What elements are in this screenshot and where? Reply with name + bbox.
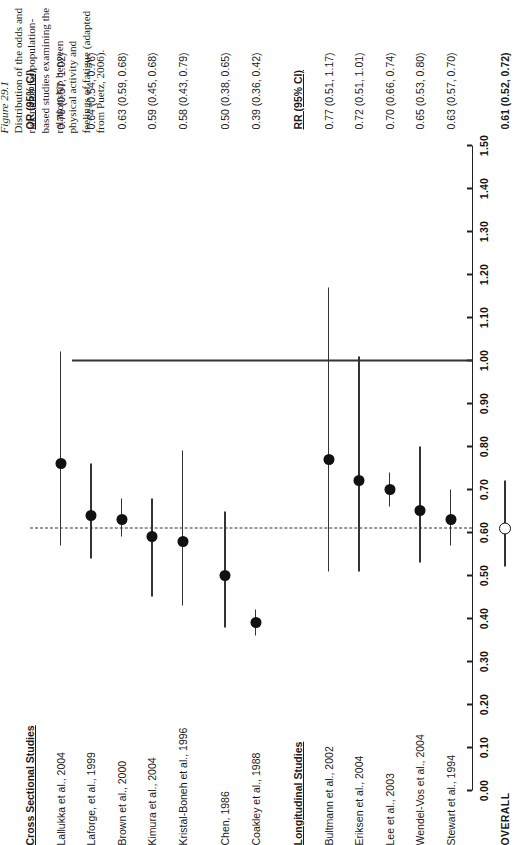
study-value-label: 0.63 (0.57, 0.70) [445,52,457,129]
confidence-interval-bar [224,511,225,627]
forest-plot-figure: 0.000.100.200.300.400.500.600.700.800.90… [0,0,528,845]
axis-tick-label: 0.90 [478,392,490,413]
figure-rotated-canvas: 0.000.100.200.300.400.500.600.700.800.90… [0,0,528,845]
axis-tick-label: 0.70 [478,478,490,499]
axis-tick [467,316,472,317]
axis-tick-label: 0.40 [478,607,490,628]
study-point-marker [445,514,456,525]
study-point-marker [250,617,261,628]
study-row-label: Wendel-Vos et al., 2004 [414,797,426,845]
axis-tick-label: 0.30 [478,650,490,671]
axis-tick-label: 1.50 [478,134,490,155]
study-row-label: Kristal-Boneh et al., 1996 [177,797,189,845]
axis-tick [467,789,472,790]
study-row-label: Chen, 1986 [219,797,231,845]
axis-tick-label: 0.20 [478,693,490,714]
study-row-label: Bultmann et al., 2002 [323,797,335,845]
axis-tick-label: 0.50 [478,564,490,585]
null-reference-line [72,359,472,360]
study-row-label: Stewart et al., 1994 [445,797,457,845]
axis-tick [467,445,472,446]
axis-tick-label: 0.10 [478,736,490,757]
study-value-label: 0.65 (0.53, 0.80) [414,52,426,129]
study-point-marker [220,570,231,581]
confidence-interval-bar [60,351,61,545]
study-value-label: 0.63 (0.59, 0.68) [116,52,128,129]
study-point-marker [415,505,426,516]
confidence-interval-bar [151,498,152,597]
study-point-marker [384,484,395,495]
confidence-interval-bar [419,446,420,562]
axis-tick [467,144,472,145]
axis-tick-label: 1.10 [478,306,490,327]
study-point-marker [55,458,66,469]
overall-point-marker [499,522,511,534]
axis-tick [467,230,472,231]
axis-tick-label: 0.60 [478,521,490,542]
study-point-marker [323,453,334,464]
study-point-marker [86,509,97,520]
study-row-label: Laforge, et al., 1999 [85,797,97,845]
study-row-label: Eriksen et al., 2004 [353,797,365,845]
study-value-label: 0.59 (0.45, 0.68) [146,52,158,129]
caption-title: Figure 29.1 [0,5,12,133]
axis-tick [467,574,472,575]
axis-tick [467,617,472,618]
study-row-label: Lee et al., 2003 [384,797,396,845]
study-value-label: 0.72 (0.51, 1.01) [353,52,365,129]
study-value-label: 0.50 (0.38, 0.65) [219,52,231,129]
axis-tick [467,660,472,661]
study-point-marker [177,535,188,546]
group-header-label: Cross Sectional Studies [24,797,36,845]
overall-value-label: 0.61 (0.52, 0.72) [499,52,511,129]
figure-caption: Figure 29.1 Distribution of the odds and… [0,5,107,133]
summary-reference-line [30,527,472,528]
study-point-marker [354,475,365,486]
study-point-marker [116,514,127,525]
study-row-label: Coakley et al., 1988 [250,797,262,845]
axis-tick-label: 1.00 [478,349,490,370]
study-row-label: Brown et al., 2000 [116,797,128,845]
study-value-label: 0.77 (0.51, 1.17) [323,52,335,129]
axis-tick [467,531,472,532]
confidence-interval-bar [358,356,359,571]
axis-tick-label: 1.20 [478,263,490,284]
axis-tick [467,746,472,747]
study-row-label: Lallukka et al., 2004 [55,797,67,845]
study-value-label: 0.39 (0.36, 0.42) [250,52,262,129]
study-value-label: 0.58 (0.43, 0.79) [177,52,189,129]
axis-tick-label: 1.30 [478,220,490,241]
axis-tick [467,187,472,188]
axis-tick-label: 1.40 [478,177,490,198]
confidence-interval-bar [182,450,183,605]
axis-tick-label: 0.00 [478,779,490,800]
axis-tick [467,703,472,704]
effect-measure-header: RR (95% CI) [292,69,304,129]
study-value-label: 0.70 (0.66, 0.74) [384,52,396,129]
axis-tick-label: 0.80 [478,435,490,456]
overall-row-label: OVERALL [499,797,511,845]
axis-tick [467,402,472,403]
axis-tick [467,488,472,489]
confidence-interval-bar [328,287,329,571]
x-axis-line [472,145,473,790]
study-row-label: Kimura et al., 2004 [146,797,158,845]
study-point-marker [147,531,158,542]
axis-tick [467,273,472,274]
group-header-label: Longitudinal Studies [292,797,304,845]
caption-body: Distribution of the odds and risk ratios… [12,7,106,133]
